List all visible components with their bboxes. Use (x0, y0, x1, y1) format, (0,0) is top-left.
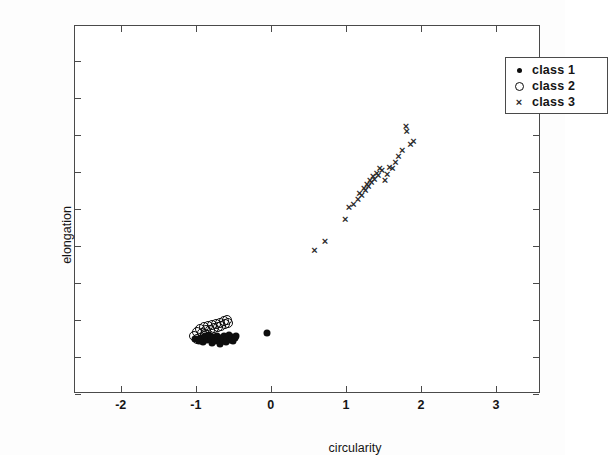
legend-marker-filled-dot-icon (506, 62, 532, 78)
x-tick-mark-top (271, 26, 272, 32)
y-tick-mark (75, 283, 81, 284)
legend-label-class-2: class 2 (532, 79, 575, 93)
y-tick-mark (75, 98, 81, 99)
y-tick-mark-right (533, 135, 539, 136)
x-tick-mark (346, 386, 347, 392)
y-tick-mark-right (533, 172, 539, 173)
x-tick-label: -2 (115, 398, 126, 412)
x-tick-label: 2 (417, 398, 424, 412)
x-axis-label: circularity (329, 441, 382, 455)
data-point-class-2 (200, 329, 210, 339)
x-tick-mark-top (346, 26, 347, 32)
x-tick-mark-top (196, 26, 197, 32)
y-tick-mark-right (533, 394, 539, 395)
legend-label-class-1: class 1 (532, 63, 575, 77)
legend-marker-cross-icon: × (506, 94, 532, 110)
legend-item-class-1: class 1 (506, 62, 607, 78)
x-tick-mark-top (121, 26, 122, 32)
x-tick-mark (496, 386, 497, 392)
axes-frame: -1.5-1-0.500.511.522.53 -2-10123 elongat… (74, 25, 540, 393)
legend-item-class-2: class 2 (506, 78, 607, 94)
data-point-class-3 (310, 245, 319, 254)
x-tick-label: -1 (190, 398, 201, 412)
legend-box: class 1 class 2 × class 3 (505, 57, 608, 114)
data-point-class-3 (409, 136, 418, 145)
legend-label-class-3: class 3 (532, 95, 575, 109)
y-tick-mark (75, 320, 81, 321)
x-tick-mark (196, 386, 197, 392)
y-tick-mark-right (533, 246, 539, 247)
y-tick-mark (75, 357, 81, 358)
y-tick-mark-right (533, 209, 539, 210)
y-tick-mark (75, 394, 81, 395)
x-tick-label: 1 (342, 398, 349, 412)
legend-item-class-3: × class 3 (506, 94, 607, 110)
data-point-class-3 (320, 236, 329, 245)
y-tick-mark-right (533, 283, 539, 284)
y-axis-label: elongation (60, 206, 74, 264)
y-tick-mark-right (533, 320, 539, 321)
x-tick-mark (121, 386, 122, 392)
y-tick-mark (75, 209, 81, 210)
x-tick-label: 0 (267, 398, 274, 412)
plot-data-area (75, 26, 539, 392)
x-tick-mark-top (421, 26, 422, 32)
x-tick-mark-top (496, 26, 497, 32)
legend-marker-open-circle-icon (506, 78, 532, 94)
data-point-class-1 (264, 330, 271, 337)
data-point-class-1 (233, 332, 240, 339)
y-tick-mark-right (533, 357, 539, 358)
y-tick-mark (75, 61, 81, 62)
y-tick-mark (75, 246, 81, 247)
x-tick-mark (271, 386, 272, 392)
y-tick-mark (75, 172, 81, 173)
data-point-class-2 (223, 318, 233, 328)
x-tick-label: 3 (492, 398, 499, 412)
data-point-class-3 (341, 215, 350, 224)
x-tick-mark (421, 386, 422, 392)
y-tick-mark (75, 135, 81, 136)
